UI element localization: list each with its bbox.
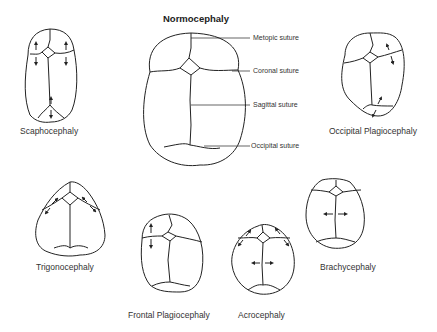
skull-brachycephaly xyxy=(306,179,364,249)
label-occipital-suture: Occipital suture xyxy=(251,142,299,149)
label-scaphocephaly: Scaphocephaly xyxy=(20,126,78,136)
label-trigonocephaly: Trigonocephaly xyxy=(36,262,94,272)
label-frontal-plagiocephaly: Frontal Plagiocephaly xyxy=(128,310,210,320)
label-brachycephaly: Brachycephaly xyxy=(320,262,376,272)
label-sagittal-suture: Sagittal suture xyxy=(253,101,298,108)
title-normocephaly: Normocephaly xyxy=(163,13,229,24)
label-coronal-suture: Coronal suture xyxy=(253,67,299,74)
skull-frontal-plagiocephaly xyxy=(141,214,203,292)
skull-diagram xyxy=(0,0,437,332)
skull-scaphocephaly xyxy=(25,29,77,122)
skull-trigonocephaly xyxy=(36,182,105,256)
label-acrocephaly: Acrocephaly xyxy=(238,310,285,320)
skull-occipital-plagiocephaly xyxy=(342,33,404,116)
skull-normocephaly xyxy=(144,33,250,166)
label-metopic-suture: Metopic suture xyxy=(253,34,299,41)
label-occipital-plagiocephaly: Occipital Plagiocephaly xyxy=(329,126,417,136)
skull-acrocephaly xyxy=(232,225,295,295)
